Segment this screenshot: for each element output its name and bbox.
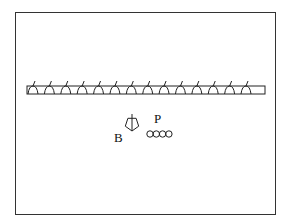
chain-circle (166, 131, 172, 137)
strip-unit-tick (115, 81, 117, 86)
label-b: B (114, 131, 123, 144)
strip-unit-arch (225, 86, 235, 94)
strip-unit-arch (241, 86, 251, 94)
strip-unit-arch (94, 86, 104, 94)
chain-circle (159, 131, 165, 137)
strip-unit-arch (208, 86, 218, 94)
label-p: P (154, 112, 161, 125)
chain-circle (153, 131, 159, 137)
strip-unit-arch (192, 86, 202, 94)
strip-unit-arch (143, 86, 153, 94)
chain-circle (147, 131, 153, 137)
four-circle-chain-icon (147, 131, 172, 137)
strip-unit-arch (28, 86, 38, 94)
strip-unit-tick (180, 81, 182, 86)
strip-unit-arch (175, 86, 185, 94)
diagram-canvas (0, 0, 290, 223)
strip-unit-tick (148, 81, 150, 86)
strip-unit-arch (61, 86, 71, 94)
strip-unit-tick (230, 81, 232, 86)
strip-unit-arch (44, 86, 54, 94)
strip-unit-arch (110, 86, 120, 94)
strip-unit-tick (246, 81, 248, 86)
strip-unit-tick (164, 81, 166, 86)
strip-unit-tick (33, 81, 35, 86)
strip-unit-tick (197, 81, 199, 86)
strip-unit-tick (99, 81, 101, 86)
strip-unit-arch (77, 86, 87, 94)
strip (27, 81, 265, 94)
strip-unit-tick (131, 81, 133, 86)
strip-unit-tick (49, 81, 51, 86)
strip-unit-tick (213, 81, 215, 86)
strip-unit-tick (82, 81, 84, 86)
strip-unit-tick (66, 81, 68, 86)
strip-unit-arch (126, 86, 136, 94)
pentagon-symbol (125, 114, 138, 131)
strip-unit-arch (159, 86, 169, 94)
strip-units (28, 81, 251, 94)
